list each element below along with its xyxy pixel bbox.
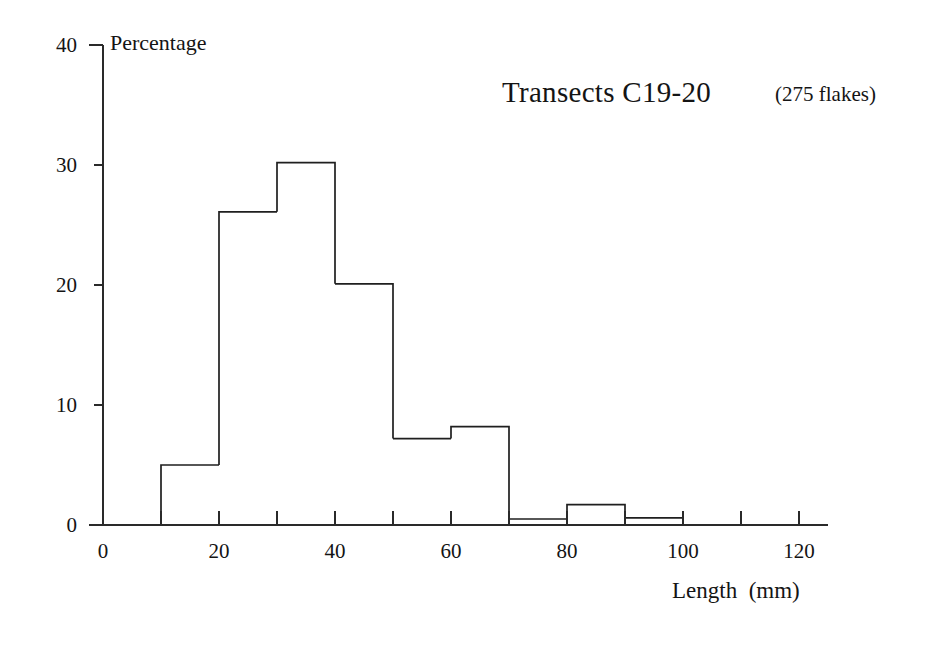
x-tick-label-20: 20 (209, 539, 230, 563)
histogram-bar (161, 465, 219, 525)
y-tick-label-0: 0 (67, 513, 78, 537)
x-tick-label-120: 120 (783, 539, 815, 563)
histogram-bar (567, 505, 625, 519)
y-tick-label-10: 10 (56, 393, 77, 417)
x-tick-label-0: 0 (98, 539, 109, 563)
histogram-bar (277, 163, 335, 284)
flake-count-annotation: (275 flakes) (775, 82, 876, 107)
histogram-bar (335, 284, 393, 439)
histogram-page: 010203040 020406080100120 Transects C19-… (0, 0, 943, 650)
x-axis-tick-labels: 020406080100120 (98, 539, 815, 563)
y-tick-label-40: 40 (56, 33, 77, 57)
chart-title: Transects C19-20 (502, 76, 711, 109)
x-tick-label-60: 60 (441, 539, 462, 563)
y-axis-tick-labels: 010203040 (56, 33, 77, 537)
y-axis-ticks (89, 45, 103, 525)
y-tick-label-30: 30 (56, 153, 77, 177)
x-axis-title: Length (mm) (672, 578, 800, 604)
histogram-bar (451, 427, 509, 519)
x-tick-label-80: 80 (557, 539, 578, 563)
x-axis-ticks (103, 511, 799, 525)
y-tick-label-20: 20 (56, 273, 77, 297)
bars-group (161, 163, 683, 525)
y-axis-title: Percentage (110, 30, 207, 56)
axes-group (103, 45, 828, 525)
histogram-bar (219, 212, 277, 465)
x-tick-label-40: 40 (325, 539, 346, 563)
x-tick-label-100: 100 (667, 539, 699, 563)
histogram-bar (625, 518, 683, 525)
